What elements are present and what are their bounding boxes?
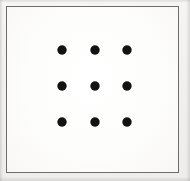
frame-interior <box>7 7 178 172</box>
bounding-rectangle <box>6 6 179 173</box>
nine-dot-figure <box>0 0 190 181</box>
